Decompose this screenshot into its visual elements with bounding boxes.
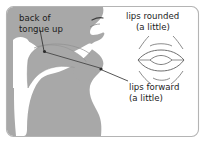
tongue-pointer-dot xyxy=(43,50,46,53)
vocal-tract-figure: back of tongue up lips rounded (a little… xyxy=(0,0,205,143)
lips-rounded-label-line1: lips rounded xyxy=(126,11,179,21)
diagram-canvas: back of tongue up lips rounded (a little… xyxy=(0,0,205,143)
lips-forward-label-line2: (a little) xyxy=(129,93,163,103)
lips-forward-label-line1: lips forward xyxy=(129,82,179,92)
tongue-label-line2: tongue up xyxy=(19,24,63,34)
lips-rounded-label-line2: (a little) xyxy=(136,22,170,32)
tongue-label-line1: back of xyxy=(19,13,51,23)
